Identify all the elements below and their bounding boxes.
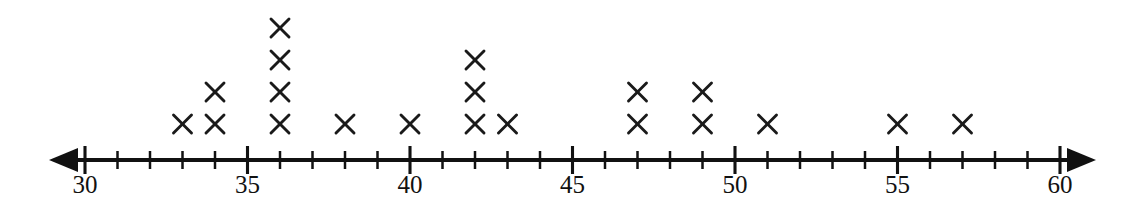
data-marks [174,19,972,133]
axis-arrow-left-icon [49,148,78,172]
x-mark-icon [174,115,192,133]
x-mark-icon [499,115,517,133]
x-mark-icon [271,51,289,69]
dot-plot-figure: 30354045505560 [0,0,1137,215]
axis-tick-label: 30 [73,171,98,198]
axis-arrow-right-icon [1067,148,1096,172]
axis-tick-label: 40 [398,171,423,198]
x-mark-icon [694,83,712,101]
x-mark-icon [466,51,484,69]
x-mark-icon [889,115,907,133]
axis-tick-labels: 30354045505560 [73,171,1073,198]
x-mark-icon [336,115,354,133]
x-mark-icon [759,115,777,133]
x-mark-icon [271,19,289,37]
x-mark-icon [466,83,484,101]
axis-tick-label: 55 [885,171,910,198]
x-mark-icon [271,115,289,133]
dot-plot-canvas: 30354045505560 [0,0,1137,215]
x-mark-icon [271,83,289,101]
x-mark-icon [401,115,419,133]
x-mark-icon [629,83,647,101]
x-mark-icon [206,83,224,101]
axis-tick-label: 45 [560,171,585,198]
axis-tick-label: 60 [1048,171,1073,198]
x-mark-icon [466,115,484,133]
axis-tick-label: 35 [235,171,260,198]
x-mark-icon [206,115,224,133]
x-mark-icon [694,115,712,133]
x-mark-icon [629,115,647,133]
x-mark-icon [954,115,972,133]
axis-tick-label: 50 [723,171,748,198]
